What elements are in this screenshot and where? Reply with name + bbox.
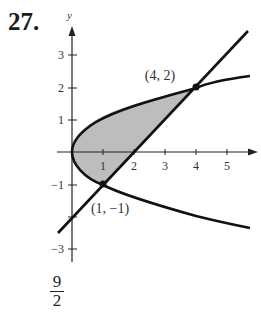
svg-text:3: 3 bbox=[162, 159, 168, 173]
graph: y 123 45 321 −1−3 (4, 2) (1, −1) bbox=[0, 0, 261, 320]
svg-text:4: 4 bbox=[193, 159, 199, 173]
fraction-denominator: 2 bbox=[50, 293, 64, 309]
svg-text:1: 1 bbox=[100, 159, 106, 173]
intersection-point-1-neg1 bbox=[100, 181, 107, 188]
label-1-neg1: (1, −1) bbox=[91, 201, 130, 217]
y-axis-label: y bbox=[66, 9, 72, 21]
svg-text:2: 2 bbox=[131, 159, 137, 173]
label-4-2: (4, 2) bbox=[145, 68, 176, 84]
fraction-numerator: 9 bbox=[50, 274, 64, 290]
intersection-point-4-2 bbox=[193, 84, 200, 91]
x-axis-arrow-icon bbox=[248, 149, 258, 156]
svg-text:3: 3 bbox=[58, 48, 64, 62]
svg-text:−1: −1 bbox=[51, 178, 64, 192]
y-axis-arrow-icon bbox=[69, 26, 76, 36]
svg-text:2: 2 bbox=[58, 81, 64, 95]
answer-fraction: 9 2 bbox=[50, 274, 64, 309]
svg-text:5: 5 bbox=[224, 159, 230, 173]
svg-text:−3: −3 bbox=[51, 242, 64, 256]
svg-text:1: 1 bbox=[58, 113, 64, 127]
